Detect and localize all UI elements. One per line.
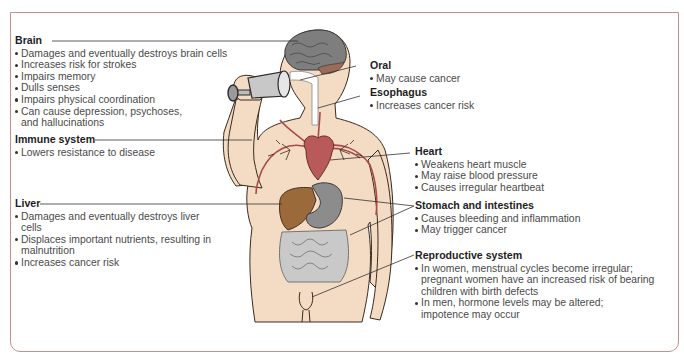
callout-title: Immune system <box>15 134 215 146</box>
callout-item: Causes irregular heartbeat <box>415 182 615 194</box>
callout-item: Lowers resistance to disease <box>15 147 215 159</box>
callout-item: In women, menstrual cycles become irregu… <box>415 263 665 298</box>
callout-item: Causes bleeding and inflammation <box>415 213 645 225</box>
callout-title: Reproductive system <box>415 250 665 262</box>
callout-item: Increases risk for strokes <box>15 59 255 71</box>
callout-oral: Oral May cause cancer <box>370 60 510 84</box>
callout-item: Damages and eventually destroys liver ce… <box>15 211 221 234</box>
callout-item: May trigger cancer <box>415 224 645 236</box>
callout-title: Liver <box>15 198 243 210</box>
callout-item: Increases cancer risk <box>15 257 243 269</box>
callout-title: Esophagus <box>370 87 530 99</box>
callout-reproductive-system: Reproductive system In women, menstrual … <box>415 250 665 321</box>
callout-liver: Liver Damages and eventually destroys li… <box>15 198 243 269</box>
callout-item: Displaces important nutrients, resulting… <box>15 234 221 257</box>
callout-item: Dulls senses <box>15 82 255 94</box>
callout-item: In men, hormone levels may be altered; i… <box>415 297 621 320</box>
callout-brain: Brain Damages and eventually destroys br… <box>15 35 255 129</box>
callout-stomach-intestines: Stomach and intestines Causes bleeding a… <box>415 200 645 236</box>
callout-item: Damages and eventually destroys brain ce… <box>15 48 255 60</box>
callout-item: Impairs physical coordination <box>15 94 255 106</box>
callout-item: May cause cancer <box>370 73 510 85</box>
intestines <box>280 230 349 282</box>
callout-item: Can cause depression, psychoses, and hal… <box>15 106 199 129</box>
callout-heart: Heart Weakens heart muscle May raise blo… <box>415 146 615 193</box>
callout-item: Increases cancer risk <box>370 100 530 112</box>
callout-item: Impairs memory <box>15 71 255 83</box>
callout-esophagus: Esophagus Increases cancer risk <box>370 87 530 111</box>
callout-immune-system: Immune system Lowers resistance to disea… <box>15 134 215 158</box>
callout-item: May raise blood pressure <box>415 170 615 182</box>
callout-title: Stomach and intestines <box>415 200 645 212</box>
callout-title: Brain <box>15 35 255 47</box>
callout-title: Oral <box>370 60 510 72</box>
callout-title: Heart <box>415 146 615 158</box>
callout-item: Weakens heart muscle <box>415 159 615 171</box>
